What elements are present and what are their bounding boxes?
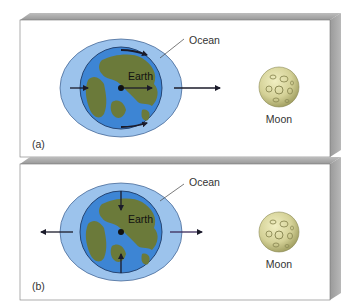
earth-center <box>118 85 124 91</box>
board-side-edge <box>330 13 341 157</box>
ocean-label: Ocean <box>189 176 220 188</box>
moon-label: Moon <box>266 258 292 270</box>
board-top-edge <box>20 13 341 20</box>
moon <box>259 212 299 252</box>
panel-label: (b) <box>32 280 45 292</box>
board-side-edge <box>330 157 341 300</box>
panel-label: (a) <box>32 138 45 150</box>
panel-a: Ocean Earth Moon (a) <box>20 13 341 157</box>
tides-diagram: Ocean Earth Moon (a) Ocean Earth Moon (b… <box>0 0 354 307</box>
earth-label: Earth <box>128 70 153 82</box>
ocean-label: Ocean <box>189 34 220 46</box>
moon <box>259 67 299 107</box>
board-top-edge <box>20 157 341 164</box>
moon-label: Moon <box>266 113 292 125</box>
earth-center <box>118 229 124 235</box>
panel-b: Ocean Earth Moon (b) <box>20 157 341 300</box>
earth-label: Earth <box>128 213 153 225</box>
